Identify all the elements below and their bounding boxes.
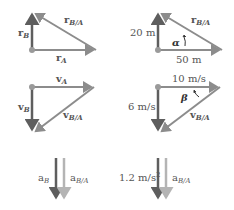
label-beta: β [181,93,188,103]
origin-dot [155,84,161,90]
label-a-b: aB [38,173,49,185]
velocity-triangle-symbolic [29,84,94,131]
label-r-ba-numeric: rB/A [191,15,210,26]
position-triangle-symbolic [29,14,96,53]
label-10ms: 10 m/s [172,74,206,84]
label-r-b: rB [18,28,29,39]
alpha-angle-arc-icon [184,37,185,46]
label-alpha: α [172,38,180,48]
label-6ms: 6 m/s [128,102,156,112]
origin-dot [155,47,161,53]
label-r-ba: rB/A [64,15,83,26]
label-20m: 20 m [130,28,155,38]
origin-dot [29,47,35,53]
relative-motion-diagram [0,0,234,210]
label-1.2-ms2: 1.2 m/s2 [119,172,161,183]
label-v-ba: vB/A [63,110,83,121]
label-r-a: rA [56,53,67,64]
label-a-ba-numeric: aB/A [172,173,191,185]
position-triangle-numeric [155,14,222,53]
acceleration-symbolic [56,158,64,197]
label-v-a: vA [56,74,67,85]
label-v-b: vB [18,102,30,113]
label-v-ba-numeric: vB/A [190,110,210,121]
origin-dot [29,84,35,90]
label-50m: 50 m [176,55,201,65]
label-a-ba: aB/A [70,173,89,185]
